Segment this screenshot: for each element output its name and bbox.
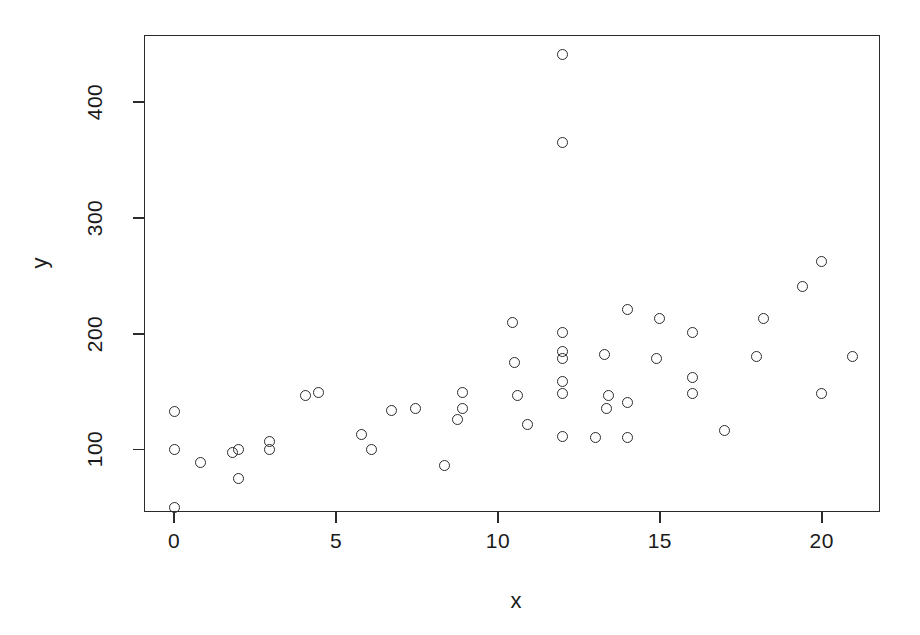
x-tick <box>173 512 175 523</box>
x-tick-label: 10 <box>468 529 528 553</box>
plot-frame <box>144 35 880 512</box>
x-tick-label: 5 <box>306 529 366 553</box>
y-tick <box>133 101 144 103</box>
y-tick-label-text: 200 <box>85 315 107 352</box>
y-tick-label: 100 <box>0 438 128 460</box>
y-tick-label-text: 300 <box>85 200 107 237</box>
x-tick <box>497 512 499 523</box>
y-tick-label: 300 <box>0 207 128 229</box>
x-tick-label: 15 <box>630 529 690 553</box>
y-tick-label: 200 <box>0 323 128 345</box>
y-tick <box>133 217 144 219</box>
x-tick <box>335 512 337 523</box>
scatter-plot-figure: 05101520 100200300400 x y <box>0 0 920 635</box>
x-tick-label: 0 <box>144 529 204 553</box>
x-tick <box>821 512 823 523</box>
x-axis-title: x <box>0 588 920 614</box>
x-axis-title-text: x <box>511 588 522 613</box>
y-tick <box>133 333 144 335</box>
y-tick-label-text: 400 <box>85 84 107 121</box>
y-axis-title: y <box>27 258 53 269</box>
y-tick-label-text: 100 <box>85 431 107 468</box>
y-tick-label: 400 <box>0 91 128 113</box>
y-tick <box>133 449 144 451</box>
x-tick <box>659 512 661 523</box>
x-tick-label: 20 <box>792 529 852 553</box>
